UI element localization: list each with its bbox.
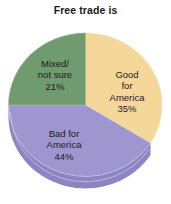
pie-chart-plot-area: Good for America35% Mixed/ not sure21% B… [0,22,171,204]
pie-chart-svg [0,22,171,204]
chart-title: Free trade is [0,4,171,17]
slice-mixed-not-sure [9,33,86,105]
pie-chart-figure: Free trade is Good for America35% Mixed/… [0,0,171,204]
